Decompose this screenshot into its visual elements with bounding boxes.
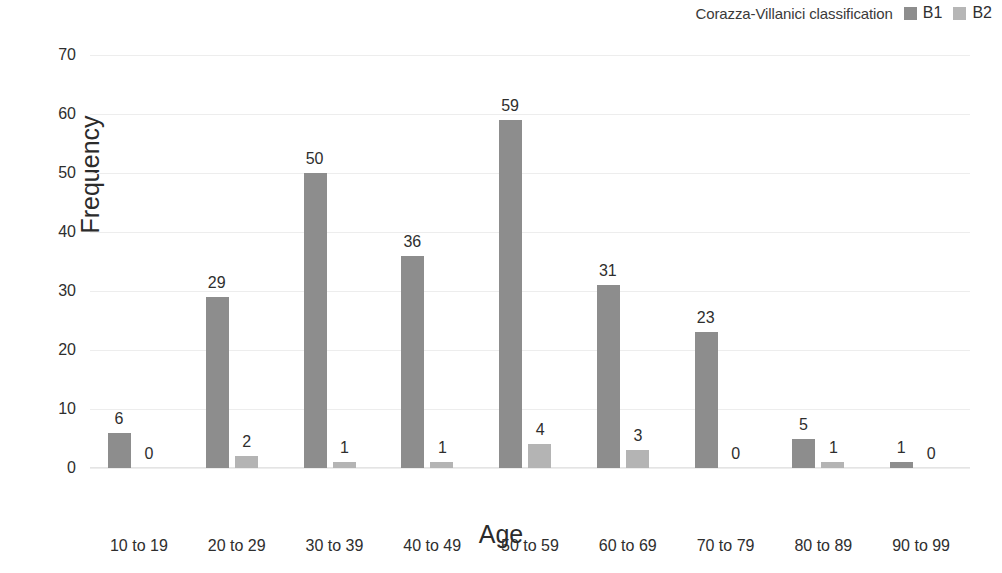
chart-legend: Corazza-Villanici classification B1 B2 — [695, 4, 992, 22]
bar-group: 51 — [774, 55, 872, 468]
bar-value-label-b2: 0 — [916, 445, 946, 463]
bar-group: 501 — [286, 55, 384, 468]
square-swatch-icon — [953, 7, 966, 20]
y-axis-tick-label: 0 — [30, 459, 76, 477]
bar-group: 10 — [872, 55, 970, 468]
bar-b1[interactable] — [792, 439, 815, 469]
bar-b2[interactable] — [235, 456, 258, 468]
bar-b1[interactable] — [206, 297, 229, 468]
y-axis-tick-label: 50 — [30, 164, 76, 182]
bar-b1[interactable] — [401, 256, 424, 468]
bar-value-label-b1: 1 — [886, 439, 916, 457]
legend-entry-b1[interactable]: B1 — [904, 4, 943, 22]
y-axis-tick-label: 20 — [30, 341, 76, 359]
bar-b2[interactable] — [821, 462, 844, 468]
bar-b1[interactable] — [695, 332, 718, 468]
y-axis-tick-label: 10 — [30, 400, 76, 418]
bar-value-label-b2: 1 — [818, 439, 848, 457]
bar-value-label-b1: 50 — [300, 150, 330, 168]
bar-value-label-b1: 23 — [691, 309, 721, 327]
bar-b1[interactable] — [304, 173, 327, 468]
bar-value-label-b1: 5 — [788, 416, 818, 434]
y-axis-tick-label: 60 — [30, 105, 76, 123]
bar-b2[interactable] — [528, 444, 551, 468]
bar-b1[interactable] — [890, 462, 913, 468]
bar-group: 313 — [579, 55, 677, 468]
y-axis-tick-label: 70 — [30, 46, 76, 64]
bar-b2[interactable] — [626, 450, 649, 468]
bar-group: 361 — [383, 55, 481, 468]
bar-b2[interactable] — [333, 462, 356, 468]
bar-value-label-b2: 0 — [721, 445, 751, 463]
bar-value-label-b1: 36 — [397, 233, 427, 251]
bar-b1[interactable] — [499, 120, 522, 468]
y-axis-tick-label: 40 — [30, 223, 76, 241]
bar-b1[interactable] — [597, 285, 620, 468]
plot-area: 0102030405060706010 to 1929220 to 295013… — [90, 55, 970, 468]
square-swatch-icon — [904, 7, 917, 20]
bar-group: 292 — [188, 55, 286, 468]
bar-value-label-b2: 1 — [427, 439, 457, 457]
x-axis-title: Age — [0, 520, 1002, 549]
bar-value-label-b2: 2 — [232, 433, 262, 451]
bar-chart-figure: Corazza-Villanici classification B1 B2 F… — [0, 0, 1002, 573]
bar-b1[interactable] — [108, 433, 131, 468]
bar-group: 230 — [677, 55, 775, 468]
bar-value-label-b2: 4 — [525, 421, 555, 439]
bar-value-label-b1: 31 — [593, 262, 623, 280]
legend-entry-b2[interactable]: B2 — [953, 4, 992, 22]
bar-value-label-b2: 1 — [330, 439, 360, 457]
bar-value-label-b1: 59 — [495, 97, 525, 115]
bar-group: 594 — [481, 55, 579, 468]
legend-label-b1: B1 — [923, 4, 943, 22]
gridline — [90, 468, 970, 469]
y-axis-tick-label: 30 — [30, 282, 76, 300]
bar-value-label-b2: 0 — [134, 445, 164, 463]
bar-group: 60 — [90, 55, 188, 468]
bar-b2[interactable] — [430, 462, 453, 468]
legend-title: Corazza-Villanici classification — [695, 5, 892, 22]
legend-label-b2: B2 — [972, 4, 992, 22]
bar-value-label-b1: 29 — [202, 274, 232, 292]
bar-value-label-b1: 6 — [104, 410, 134, 428]
bar-value-label-b2: 3 — [623, 427, 653, 445]
